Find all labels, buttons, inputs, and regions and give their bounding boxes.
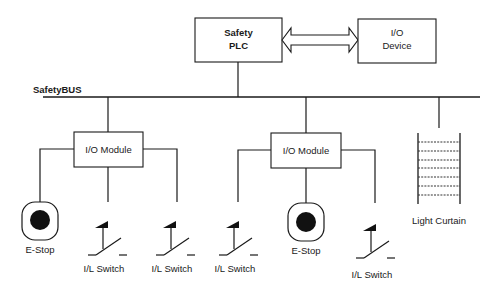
estop-1-label: E-Stop [25, 244, 54, 255]
estop-1: E-Stop [22, 202, 58, 255]
safety-plc-label-line2: PLC [229, 40, 248, 51]
light-curtain-label: Light Curtain [412, 215, 466, 226]
interlock-switch-4: I/L Switch [352, 224, 395, 280]
light-curtain: Light Curtain [412, 97, 466, 226]
interlock-switch-icon [156, 221, 195, 255]
safety-plc-node: Safety PLC [195, 18, 282, 62]
interlock-switch-icon [356, 224, 395, 258]
interlock-switch-icon [219, 221, 258, 255]
interlock-switch-1-label: I/L Switch [84, 263, 125, 274]
interlock-switch-2: I/L Switch [152, 221, 195, 274]
interlock-switch-2-label: I/L Switch [152, 263, 193, 274]
interlock-switch-4-label: I/L Switch [352, 269, 393, 280]
interlock-switch-3: I/L Switch [215, 221, 258, 274]
safety-plc-label-line1: Safety [224, 27, 253, 38]
estop-2: E-Stop [288, 203, 324, 256]
io-device-label-line2: Device [382, 40, 411, 51]
safety-bus-label: SafetyBUS [33, 84, 82, 95]
io-module-1-label: I/O Module [85, 144, 131, 155]
interlock-switch-1: I/L Switch [84, 221, 127, 274]
interlock-switch-icon [88, 221, 127, 255]
safety-bus-diagram: Safety PLC I/O Device SafetyBUS I/O Modu… [0, 0, 501, 286]
io-module-2: I/O Module [238, 97, 375, 203]
safety-bus: SafetyBUS [33, 84, 480, 97]
io-device-node: I/O Device [358, 19, 436, 63]
io-module-1: I/O Module [40, 97, 177, 202]
light-curtain-icon [418, 133, 460, 204]
estop-2-label: E-Stop [291, 245, 320, 256]
bidirectional-arrow-icon [282, 28, 358, 52]
interlock-switch-3-label: I/L Switch [215, 263, 256, 274]
io-module-2-label: I/O Module [283, 145, 329, 156]
io-device-label-line1: I/O [391, 27, 404, 38]
